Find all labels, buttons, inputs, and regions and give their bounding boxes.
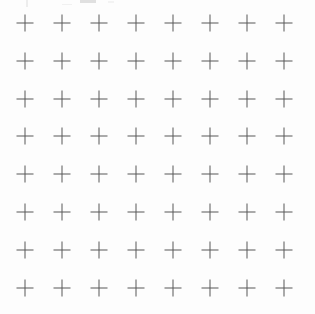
page-canvas [0, 0, 315, 314]
cross-vertical-bar [136, 53, 137, 70]
plus-cross-mark-icon [54, 280, 71, 297]
plus-cross-mark-icon [202, 166, 219, 183]
plus-cross-mark-icon [239, 128, 256, 145]
plus-cross-mark-icon [91, 204, 108, 221]
cross-vertical-bar [136, 15, 137, 32]
plus-cross-mark-icon [202, 280, 219, 297]
cross-vertical-bar [247, 166, 248, 183]
plus-cross-mark-icon [239, 91, 256, 108]
plus-cross-mark-icon [91, 280, 108, 297]
plus-cross-mark-icon [202, 91, 219, 108]
cross-vertical-bar [173, 242, 174, 259]
cross-vertical-bar [62, 91, 63, 108]
plus-cross-mark-icon [239, 53, 256, 70]
cross-vertical-bar [173, 128, 174, 145]
plus-cross-mark-icon [128, 53, 145, 70]
cross-vertical-bar [284, 204, 285, 221]
cross-vertical-bar [25, 242, 26, 259]
cross-vertical-bar [136, 280, 137, 297]
plus-cross-mark-icon [165, 280, 182, 297]
plus-cross-mark-icon [17, 15, 34, 32]
plus-cross-mark-icon [128, 280, 145, 297]
plus-cross-mark-icon [202, 128, 219, 145]
plus-cross-mark-icon [54, 15, 71, 32]
plus-cross-mark-icon [165, 91, 182, 108]
plus-cross-mark-icon [239, 242, 256, 259]
plus-cross-mark-icon [128, 204, 145, 221]
cross-vertical-bar [173, 91, 174, 108]
plus-cross-mark-icon [239, 15, 256, 32]
plus-cross-mark-icon [202, 15, 219, 32]
plus-cross-mark-icon [128, 15, 145, 32]
plus-cross-mark-icon [239, 204, 256, 221]
plus-cross-mark-icon [128, 166, 145, 183]
plus-cross-mark-icon [17, 204, 34, 221]
cross-vertical-bar [25, 15, 26, 32]
plus-cross-mark-icon [17, 53, 34, 70]
plus-cross-mark-icon [128, 242, 145, 259]
cross-vertical-bar [173, 204, 174, 221]
cross-vertical-bar [62, 166, 63, 183]
plus-cross-mark-icon [202, 53, 219, 70]
cross-vertical-bar [25, 91, 26, 108]
cross-vertical-bar [136, 128, 137, 145]
cross-vertical-bar [25, 53, 26, 70]
plus-cross-mark-icon [165, 242, 182, 259]
plus-cross-mark-icon [17, 242, 34, 259]
cross-vertical-bar [284, 91, 285, 108]
plus-cross-mark-icon [165, 204, 182, 221]
plus-cross-mark-icon [276, 242, 293, 259]
plus-cross-mark-icon [54, 53, 71, 70]
plus-cross-mark-icon [91, 242, 108, 259]
plus-cross-mark-icon [165, 166, 182, 183]
cross-vertical-bar [247, 242, 248, 259]
cross-vertical-bar [210, 128, 211, 145]
plus-cross-mark-icon [54, 166, 71, 183]
cross-vertical-bar [284, 15, 285, 32]
plus-cross-mark-icon [165, 128, 182, 145]
plus-cross-mark-icon [276, 204, 293, 221]
cross-vertical-bar [210, 166, 211, 183]
cross-vertical-bar [136, 242, 137, 259]
plus-cross-mark-icon [276, 91, 293, 108]
plus-cross-mark-icon [276, 53, 293, 70]
cross-vertical-bar [247, 53, 248, 70]
cross-vertical-bar [173, 53, 174, 70]
cross-vertical-bar [99, 91, 100, 108]
plus-cross-mark-icon [91, 166, 108, 183]
cross-vertical-bar [99, 53, 100, 70]
cross-vertical-bar [62, 53, 63, 70]
cross-vertical-bar [210, 204, 211, 221]
cross-vertical-bar [99, 280, 100, 297]
cross-vertical-bar [210, 280, 211, 297]
cross-vertical-bar [62, 242, 63, 259]
cross-vertical-bar [99, 166, 100, 183]
plus-cross-mark-icon [165, 15, 182, 32]
cross-vertical-bar [284, 128, 285, 145]
plus-cross-mark-icon [202, 242, 219, 259]
cross-vertical-bar [62, 280, 63, 297]
cross-vertical-bar [284, 166, 285, 183]
plus-cross-mark-icon [239, 280, 256, 297]
plus-cross-mark-icon [54, 242, 71, 259]
cross-vertical-bar [136, 204, 137, 221]
cross-vertical-bar [173, 15, 174, 32]
plus-cross-mark-icon [276, 128, 293, 145]
cross-vertical-bar [136, 91, 137, 108]
plus-cross-mark-icon [276, 166, 293, 183]
plus-cross-mark-icon [91, 128, 108, 145]
cross-vertical-bar [210, 53, 211, 70]
cross-vertical-bar [210, 242, 211, 259]
cross-vertical-bar [25, 280, 26, 297]
cross-vertical-bar [284, 53, 285, 70]
plus-cross-mark-icon [202, 204, 219, 221]
cross-vertical-bar [173, 280, 174, 297]
cross-vertical-bar [247, 280, 248, 297]
cross-vertical-bar [247, 204, 248, 221]
cross-vertical-bar [247, 91, 248, 108]
cross-vertical-bar [210, 91, 211, 108]
cross-vertical-bar [99, 204, 100, 221]
plus-cross-mark-icon [239, 166, 256, 183]
plus-cross-mark-icon [17, 91, 34, 108]
plus-cross-mark-icon [165, 53, 182, 70]
